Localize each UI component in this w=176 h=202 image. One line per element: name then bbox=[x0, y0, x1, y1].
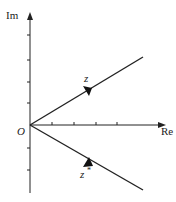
vector-z-conjugate bbox=[30, 125, 143, 190]
argand-diagram: Im Re O z z * bbox=[0, 0, 176, 202]
vector-z-arrow-icon bbox=[83, 86, 92, 96]
vector-z-conjugate-superscript: * bbox=[87, 166, 91, 175]
imaginary-axis-label: Im bbox=[6, 9, 19, 21]
imaginary-axis bbox=[27, 12, 33, 193]
imaginary-axis-arrow-icon bbox=[27, 12, 33, 20]
vector-z bbox=[30, 57, 143, 125]
real-axis-label: Re bbox=[161, 125, 173, 137]
vector-z-label: z bbox=[83, 72, 89, 84]
real-axis bbox=[30, 122, 166, 128]
vector-z-conjugate-label: z bbox=[79, 168, 85, 180]
origin-label: O bbox=[17, 125, 25, 137]
